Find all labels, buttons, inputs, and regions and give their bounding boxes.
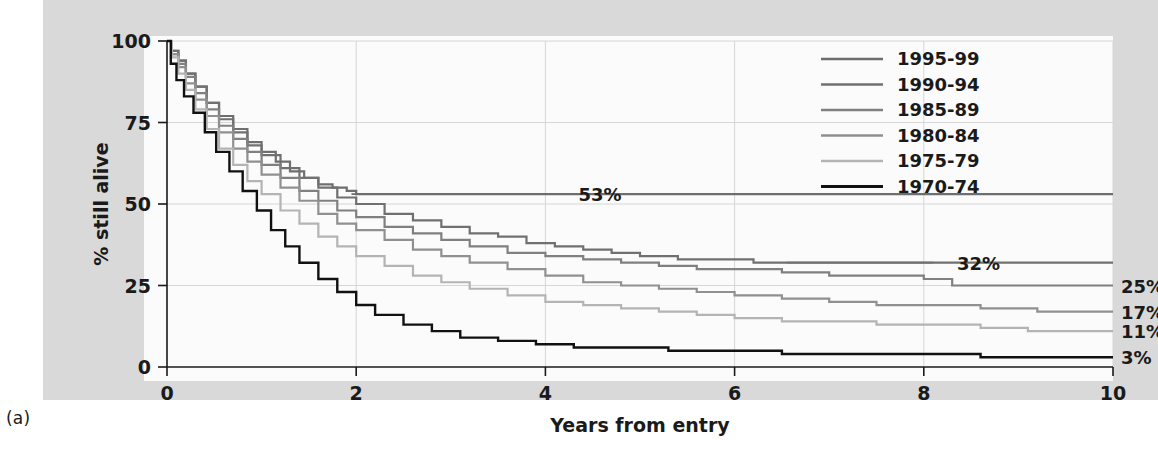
figure-container: (a) 02550751000246810Years from entry% s…	[0, 0, 1158, 474]
annotation-label-53%: 53%	[579, 184, 622, 205]
x-tick-label-0: 0	[160, 382, 173, 404]
x-tick-label-8: 8	[917, 382, 930, 404]
legend-label-1980-84: 1980-84	[897, 125, 980, 146]
y-axis-title: % still alive	[90, 142, 112, 265]
axis-titles: Years from entry% still alive	[90, 142, 730, 436]
end-labels: 25%17%11%3%	[1121, 276, 1158, 369]
x-tick-label-6: 6	[728, 382, 741, 404]
end-label-17%: 17%	[1121, 302, 1158, 323]
end-label-25%: 25%	[1121, 276, 1158, 297]
legend-label-1990-94: 1990-94	[897, 74, 980, 95]
y-tick-label-75: 75	[125, 112, 151, 134]
x-tick-label-2: 2	[350, 382, 363, 404]
x-tick-label-10: 10	[1100, 382, 1126, 404]
end-label-3%: 3%	[1121, 347, 1152, 368]
y-tick-label-25: 25	[125, 275, 151, 297]
y-tick-label-100: 100	[111, 30, 151, 52]
y-tick-label-50: 50	[125, 193, 151, 215]
end-label-11%: 11%	[1121, 321, 1158, 342]
y-tick-label-0: 0	[138, 356, 151, 378]
legend-label-1975-79: 1975-79	[897, 150, 980, 171]
x-axis-title: Years from entry	[549, 414, 730, 436]
survival-curve-chart: 02550751000246810Years from entry% still…	[0, 0, 1158, 474]
legend-label-1985-89: 1985-89	[897, 99, 980, 120]
annotation-label-32%: 32%	[957, 253, 1000, 274]
annotations: 53%32%	[351, 184, 1000, 273]
legend-label-1970-74: 1970-74	[897, 176, 980, 197]
x-tick-label-4: 4	[539, 382, 552, 404]
legend-label-1995-99: 1995-99	[897, 48, 980, 69]
